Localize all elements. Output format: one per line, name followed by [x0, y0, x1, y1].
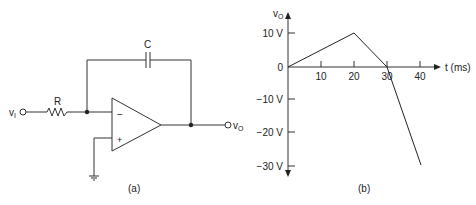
resistor-icon	[47, 108, 67, 116]
svg-text:30: 30	[381, 71, 393, 82]
input-terminal	[20, 109, 26, 115]
svg-text:40: 40	[414, 71, 426, 82]
minus-sign: −	[117, 109, 123, 120]
y-axis-arrow-icon	[285, 12, 291, 19]
svg-text:10 V: 10 V	[262, 28, 283, 39]
output-label: vO	[233, 120, 244, 132]
svg-text:0: 0	[277, 62, 283, 73]
output-terminal	[225, 122, 231, 128]
junction-node	[189, 123, 193, 127]
svg-text:20: 20	[348, 71, 360, 82]
y-tick-labels: 10 V 0 −10 V −20 V −30 V	[257, 28, 284, 172]
x-tick-labels: 10 20 30 40	[315, 71, 426, 82]
vo-waveform	[288, 33, 421, 165]
resistor-label: R	[54, 96, 61, 107]
junction-node	[85, 110, 89, 114]
svg-text:10: 10	[315, 71, 327, 82]
plus-sign: +	[117, 135, 122, 145]
svg-text:−10 V: −10 V	[257, 94, 284, 105]
x-axis-arrow-icon	[434, 64, 441, 70]
y-axis-down-arrow-icon	[285, 170, 291, 177]
ground-icon	[89, 176, 99, 180]
integrator-circuit	[20, 52, 231, 180]
input-label: vI	[9, 107, 16, 119]
capacitor-label: C	[144, 39, 151, 50]
circuit-caption: (a)	[128, 183, 140, 194]
svg-text:−30 V: −30 V	[257, 161, 284, 172]
x-axis-label: t (ms)	[445, 62, 471, 73]
figure: vI vO R C − + (a) vO t (ms) 10 20 30 40 …	[0, 0, 476, 205]
svg-text:−20 V: −20 V	[257, 127, 284, 138]
chart-axes	[288, 16, 436, 172]
y-axis-label: vO	[273, 8, 284, 20]
graph-caption: (b)	[358, 183, 370, 194]
